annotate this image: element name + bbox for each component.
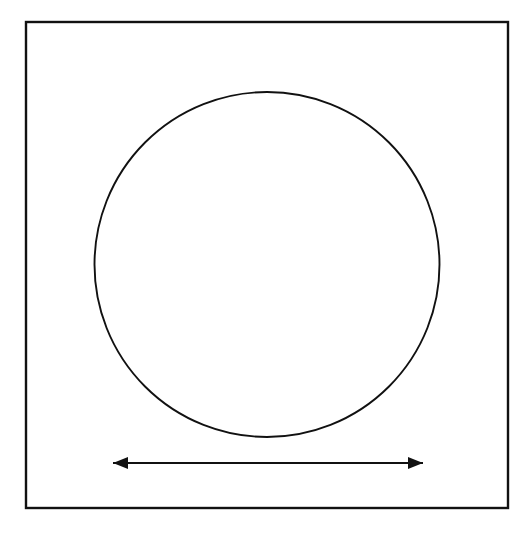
figure-root [0, 0, 519, 533]
line-diagram-svg [0, 0, 519, 533]
figure-background [0, 0, 519, 533]
